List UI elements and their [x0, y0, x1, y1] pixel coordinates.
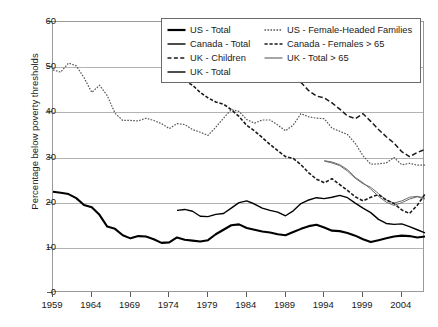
legend-item: US - Female-Headed Families: [264, 23, 427, 36]
x-axis-tick: [362, 292, 363, 297]
poverty-rate-line-chart: Percentage below poverty thresholds US -…: [0, 0, 438, 327]
legend-item: UK - Children: [167, 51, 264, 64]
legend-line-swatch-icon: [167, 53, 186, 63]
legend-line-swatch-icon: [167, 25, 186, 35]
x-axis-tick-label: 1989: [265, 299, 305, 310]
legend-item-label: Canada - Females > 65: [287, 39, 384, 49]
y-axis-tick-label: 30: [16, 151, 56, 162]
x-axis-tick: [168, 292, 169, 297]
legend-line-swatch-icon: [264, 25, 283, 35]
series-line: [324, 161, 425, 203]
series-line: [324, 161, 425, 206]
x-axis-tick-label: 1999: [342, 299, 382, 310]
x-axis-tick-label: 1974: [148, 299, 188, 310]
x-axis-tick-label: 1959: [32, 299, 72, 310]
legend-item-label: UK - Total > 65: [287, 53, 349, 63]
x-axis-tick: [323, 292, 324, 297]
legend-item: UK - Total: [167, 65, 264, 78]
series-line: [293, 81, 425, 157]
legend-line-swatch-icon: [264, 53, 283, 63]
x-axis-tick: [52, 292, 53, 297]
y-axis-tick-label: 20: [16, 196, 56, 207]
series-line: [53, 192, 425, 243]
y-axis-title: Percentage below poverty thresholds: [29, 12, 40, 252]
x-axis-tick-label: 1969: [110, 299, 150, 310]
legend-item-label: US - Total: [190, 25, 231, 35]
x-axis-tick-label: 1964: [71, 299, 111, 310]
legend-line-swatch-icon: [264, 39, 283, 49]
x-axis-tick-label: 1979: [187, 299, 227, 310]
x-axis-tick: [130, 292, 131, 297]
x-axis-tick: [285, 292, 286, 297]
y-axis-tick-label: 10: [16, 241, 56, 252]
x-axis-tick-label: 1984: [226, 299, 266, 310]
x-axis-tick: [91, 292, 92, 297]
legend-item: Canada - Total: [167, 37, 264, 50]
legend-item: UK - Total > 65: [264, 51, 427, 64]
legend-grid: US - TotalUS - Female-Headed FamiliesCan…: [167, 23, 415, 78]
legend-item-label: Canada - Total: [190, 39, 250, 49]
legend-item-label: US - Female-Headed Families: [287, 25, 412, 35]
legend-item-label: UK - Total: [190, 67, 231, 77]
legend-line-swatch-icon: [167, 39, 186, 49]
x-axis-tick: [401, 292, 402, 297]
legend-item: US - Total: [167, 23, 264, 36]
x-axis-tick: [246, 292, 247, 297]
series-line: [185, 81, 425, 214]
y-axis-tick-label: 0: [16, 286, 56, 297]
x-axis-tick: [207, 292, 208, 297]
y-axis-tick-label: 60: [16, 15, 56, 26]
x-axis-tick-label: 2004: [381, 299, 421, 310]
legend-item-label: UK - Children: [190, 53, 246, 63]
legend: US - TotalUS - Female-Headed FamiliesCan…: [161, 18, 421, 83]
x-axis-tick-label: 1994: [303, 299, 343, 310]
legend-line-swatch-icon: [167, 67, 186, 77]
y-axis-tick-label: 40: [16, 105, 56, 116]
legend-item: Canada - Females > 65: [264, 37, 427, 50]
legend-spacer: [264, 65, 427, 78]
y-axis-tick-label: 50: [16, 60, 56, 71]
